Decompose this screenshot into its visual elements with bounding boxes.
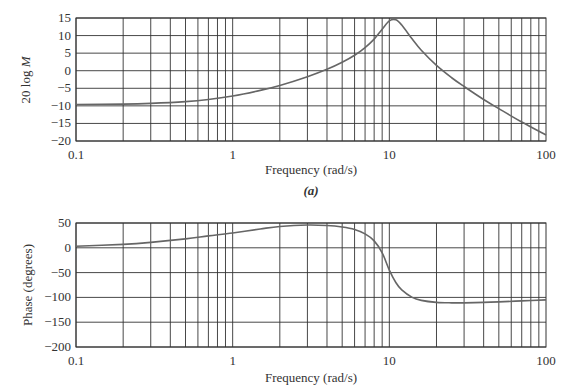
x-tick-label: 1 (229, 353, 236, 368)
x-tick-label: 10 (383, 353, 396, 368)
y-tick-label: 15 (58, 10, 71, 25)
y-tick-label: 50 (58, 215, 71, 230)
phase-curve (76, 225, 546, 303)
magnitude-y-ticks: 151050−5−10−15−20 (51, 10, 71, 148)
magnitude-plot: 151050−5−10−15−20 0.1110100 20 log M Fre… (18, 10, 556, 198)
y-tick-label: −5 (57, 80, 71, 95)
y-tick-label: −10 (51, 98, 71, 113)
magnitude-x-axis-label: Frequency (rad/s) (265, 162, 357, 177)
phase-y-ticks: 500−50−100−150−200 (44, 215, 71, 354)
magnitude-grid (76, 18, 546, 141)
plot-frame (76, 18, 546, 141)
x-tick-label: 1 (229, 147, 236, 162)
figure-caption-a: (a) (303, 183, 318, 198)
y-tick-label: −200 (44, 339, 71, 354)
y-tick-label: 10 (58, 28, 71, 43)
y-tick-label: −50 (51, 265, 71, 280)
y-tick-label: −100 (44, 289, 71, 304)
y-tick-label: 0 (65, 240, 72, 255)
plot-frame (76, 223, 546, 347)
y-tick-label: 5 (65, 45, 72, 60)
x-tick-label: 100 (536, 147, 556, 162)
x-tick-label: 0.1 (68, 147, 84, 162)
phase-plot: 500−50−100−150−200 0.1110100 Phase (degr… (20, 215, 556, 385)
y-tick-label: 0 (65, 63, 72, 78)
phase-x-axis-label: Frequency (rad/s) (265, 370, 357, 385)
x-tick-label: 10 (383, 147, 396, 162)
phase-grid (76, 223, 546, 347)
phase-x-ticks: 0.1110100 (68, 353, 556, 368)
y-tick-label: −20 (51, 133, 71, 148)
magnitude-x-ticks: 0.1110100 (68, 147, 556, 162)
y-tick-label: −15 (51, 115, 71, 130)
x-tick-label: 0.1 (68, 353, 84, 368)
magnitude-y-axis-label: 20 log M (18, 55, 33, 103)
bode-plot-figure: 151050−5−10−15−20 0.1110100 20 log M Fre… (0, 0, 588, 390)
y-tick-label: −150 (44, 314, 71, 329)
x-tick-label: 100 (536, 353, 556, 368)
magnitude-curve (76, 19, 546, 135)
phase-y-axis-label: Phase (degrees) (20, 244, 35, 326)
